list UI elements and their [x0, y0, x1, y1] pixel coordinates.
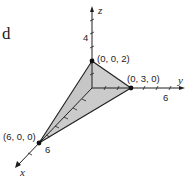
point-label-y: (0, 3, 0)	[127, 73, 160, 84]
point-z-intercept	[90, 59, 95, 64]
face-plane	[39, 61, 131, 143]
plane-diagram: d z 4 y 6 x 6 (0, 0, 2) (0, 3, 0) (6, 0,…	[0, 0, 193, 178]
z-tick-label: 4	[83, 32, 88, 43]
point-label-x: (6, 0, 0)	[3, 131, 36, 142]
x-tick-label: 6	[45, 144, 50, 155]
corner-letter: d	[2, 24, 11, 43]
x-axis-label: x	[19, 166, 25, 178]
point-x-intercept	[37, 141, 42, 146]
z-axis-label: z	[97, 4, 103, 16]
point-y-intercept	[129, 86, 134, 91]
y-axis-arrow-icon	[179, 86, 185, 90]
point-label-z: (0, 0, 2)	[97, 53, 130, 64]
y-tick-label: 6	[163, 92, 168, 103]
y-axis-label: y	[177, 74, 183, 86]
z-axis-arrow-icon	[90, 6, 94, 12]
